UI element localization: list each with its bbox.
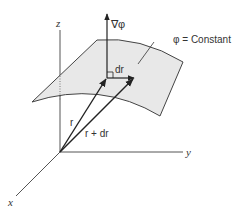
y-axis-label: y [185, 146, 191, 158]
dr-label: dr [115, 64, 125, 75]
z-axis-label: z [55, 17, 61, 29]
x-axis-label: x [7, 196, 13, 208]
r-label: r [70, 117, 74, 128]
gradient-diagram: z y x ∇φ dr r r + dr φ = Constant [0, 0, 244, 217]
x-axis [16, 152, 60, 196]
r-plus-dr-label: r + dr [85, 128, 109, 139]
gradient-label: ∇φ [110, 18, 125, 30]
surface-label: φ = Constant [173, 34, 231, 45]
